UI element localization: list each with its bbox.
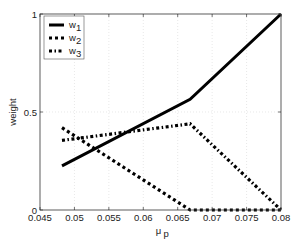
legend-label-w1: w — [68, 19, 76, 30]
x-tick-label: 0.08 — [272, 212, 291, 223]
series-w3 — [62, 124, 281, 210]
legend-label-w2: w — [68, 32, 76, 43]
x-tick-label: 0.055 — [97, 212, 121, 223]
series-w2 — [62, 128, 281, 210]
svg-text:1: 1 — [76, 22, 81, 33]
y-tick-label: 0 — [32, 205, 37, 216]
svg-text:2: 2 — [76, 35, 81, 46]
x-tick-label: 0.06 — [134, 212, 153, 223]
legend-label-w3: w — [68, 45, 76, 56]
x-tick-label: 0.075 — [235, 212, 259, 223]
svg-text:3: 3 — [76, 48, 81, 59]
x-tick-label: 0.065 — [166, 212, 190, 223]
series-w1 — [62, 14, 281, 166]
line-chart: 0.0450.050.0550.060.0650.070.0750.0800.5… — [0, 0, 304, 244]
legend: w1w2w3 — [44, 16, 84, 59]
x-tick-label: 0.07 — [203, 212, 222, 223]
y-axis-label: weight — [7, 98, 18, 127]
x-tick-label: 0.05 — [65, 212, 84, 223]
y-tick-label: 0.5 — [24, 107, 37, 118]
svg-text:p: p — [164, 228, 169, 239]
y-tick-label: 1 — [32, 9, 37, 20]
x-axis-label: μp — [156, 225, 169, 239]
svg-text:μ: μ — [156, 225, 161, 236]
